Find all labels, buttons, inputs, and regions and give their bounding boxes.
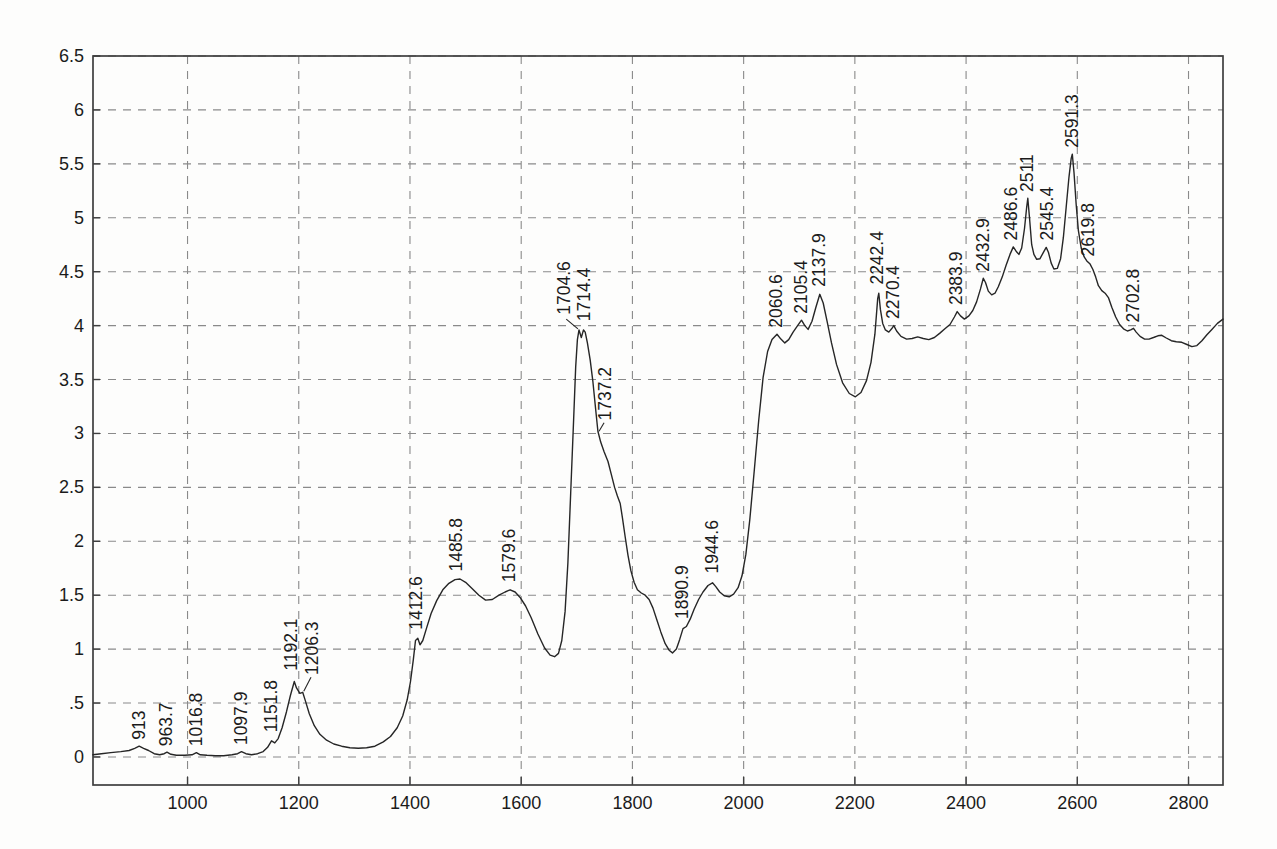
peak-label: 1206.3 <box>302 621 322 675</box>
x-tick-label: 2600 <box>1057 793 1097 813</box>
y-tick-label: 6.5 <box>59 46 84 66</box>
y-tick-label: 1.5 <box>59 585 84 605</box>
y-tick-label: .5 <box>69 693 84 713</box>
y-tick-label: 3.5 <box>59 370 84 390</box>
y-tick-label: 1 <box>74 639 84 659</box>
peak-label: 913 <box>129 710 149 739</box>
peak-label: 963.7 <box>156 702 176 746</box>
x-tick-label: 1600 <box>501 793 541 813</box>
y-tick-label: 6 <box>74 100 84 120</box>
x-tick-label: 1200 <box>279 793 319 813</box>
spectrum-chart: 0.511.522.533.544.555.566.51000120014001… <box>0 0 1277 849</box>
peak-label: 1714.4 <box>574 268 594 322</box>
peak-label: 1097.9 <box>231 692 251 746</box>
peak-label: 2702.8 <box>1123 269 1143 323</box>
y-tick-label: 4 <box>74 316 84 336</box>
x-tick-label: 2400 <box>946 793 986 813</box>
x-tick-label: 1800 <box>612 793 652 813</box>
peak-label: 2545.4 <box>1037 187 1057 241</box>
axis-frame <box>93 56 1223 785</box>
x-tick-label: 2800 <box>1168 793 1208 813</box>
y-tick-label: 2 <box>74 531 84 551</box>
peak-label: 1192.1 <box>281 618 301 670</box>
y-tick-label: 5 <box>74 208 84 228</box>
y-tick-label: 4.5 <box>59 262 84 282</box>
y-tick-label: 5.5 <box>59 154 84 174</box>
peak-label: 2591.3 <box>1062 94 1082 148</box>
peak-label: 2432.9 <box>973 218 993 272</box>
x-tick-label: 1000 <box>168 793 208 813</box>
peak-leader-line <box>599 423 604 432</box>
peak-label: 1890.9 <box>672 565 692 619</box>
peak-label: 2383.9 <box>946 252 966 306</box>
peak-label: 1944.6 <box>702 520 722 574</box>
y-tick-label: 0 <box>74 747 84 767</box>
y-tick-label: 3 <box>74 423 84 443</box>
peak-label: 2619.8 <box>1078 203 1098 257</box>
peak-label: 1016.8 <box>186 693 206 747</box>
peak-label: 1151.8 <box>261 680 281 732</box>
peak-label: 2105.4 <box>791 260 811 314</box>
peak-label: 1704.6 <box>554 261 574 315</box>
peak-label: 1485.8 <box>446 518 466 572</box>
x-tick-label: 1400 <box>390 793 430 813</box>
y-tick-label: 2.5 <box>59 477 84 497</box>
x-tick-label: 2200 <box>835 793 875 813</box>
peak-label: 2137.9 <box>809 233 829 287</box>
scanned-spectrum-page: 0.511.522.533.544.555.566.51000120014001… <box>0 0 1277 849</box>
peak-label: 2060.6 <box>766 274 786 328</box>
peak-leader-line <box>304 677 311 691</box>
peak-label: 1412.6 <box>406 576 426 630</box>
peak-label: 1737.2 <box>595 367 615 421</box>
spectrum-curve <box>93 154 1223 756</box>
peak-label: 2270.4 <box>883 265 903 319</box>
x-tick-label: 2000 <box>724 793 764 813</box>
peak-label: 1579.6 <box>499 529 519 583</box>
peak-label: 2511 <box>1017 154 1037 192</box>
peak-label: 2486.6 <box>1001 187 1021 241</box>
